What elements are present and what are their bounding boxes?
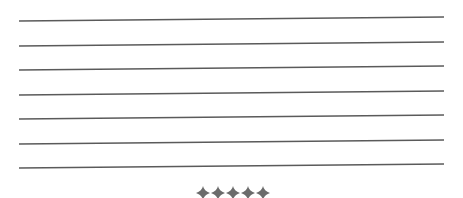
four-point-star-diamond-icon (256, 186, 270, 198)
ruled-line-4[interactable] (19, 91, 444, 95)
ruled-line-1[interactable] (19, 17, 444, 21)
four-point-star-diamond-icon (226, 186, 240, 198)
ruled-line-5[interactable] (19, 115, 444, 119)
four-point-star-diamond-icon (241, 186, 255, 198)
ornamental-divider: ◆◆◆◆◆ (196, 186, 270, 198)
ruled-line-3[interactable] (19, 66, 444, 70)
ruled-lines (0, 0, 463, 198)
four-point-star-diamond-icon (211, 186, 225, 198)
ruled-writing-area (0, 0, 463, 198)
ruled-line-7[interactable] (19, 164, 444, 168)
ruled-line-6[interactable] (19, 140, 444, 144)
four-point-star-diamond-icon (196, 186, 210, 198)
ruled-line-2[interactable] (19, 42, 444, 46)
